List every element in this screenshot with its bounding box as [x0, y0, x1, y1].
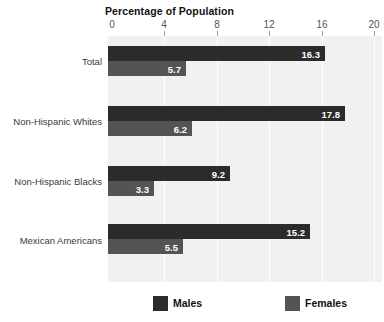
- legend-swatch-females-icon: [285, 296, 300, 311]
- bar-non-hispanic-blacks-females: 3.3: [108, 181, 154, 196]
- bar-mexican-americans-males: 15.2: [108, 224, 310, 239]
- category-label-total: Total: [82, 56, 102, 67]
- bar-value-non-hispanic-whites-males: 17.8: [322, 108, 341, 119]
- x-tick-label-12: 12: [263, 19, 274, 30]
- bar-value-total-females: 5.7: [168, 63, 181, 74]
- category-label-non-hispanic-blacks: Non-Hispanic Blacks: [14, 176, 102, 187]
- bar-mexican-americans-females: 5.5: [108, 239, 183, 254]
- gridline-8: [217, 36, 218, 282]
- x-tick-label-0: 0: [109, 19, 115, 30]
- bar-chart: Percentage of Population 0 4 8 12 16 20 …: [0, 0, 384, 322]
- x-tick-label-16: 16: [316, 19, 327, 30]
- plot-area: 16.3 5.7 17.8 6.2 9.2 3.3 15.2 5.5: [108, 36, 382, 282]
- bar-value-non-hispanic-whites-females: 6.2: [174, 123, 187, 134]
- gridline-20: [374, 36, 375, 282]
- bar-value-mexican-americans-females: 5.5: [165, 241, 178, 252]
- bar-total-males: 16.3: [108, 46, 325, 61]
- bar-total-females: 5.7: [108, 61, 186, 76]
- category-label-non-hispanic-whites: Non-Hispanic Whites: [13, 116, 102, 127]
- bar-value-total-males: 16.3: [302, 48, 321, 59]
- bar-non-hispanic-whites-females: 6.2: [108, 121, 192, 136]
- category-label-mexican-americans: Mexican Americans: [20, 235, 102, 246]
- legend-label-females: Females: [305, 297, 347, 309]
- legend-label-males: Males: [173, 297, 202, 309]
- gridline-16: [322, 36, 323, 282]
- bar-value-mexican-americans-males: 15.2: [287, 226, 306, 237]
- x-axis-title: Percentage of Population: [105, 5, 234, 17]
- legend-swatch-males-icon: [153, 296, 168, 311]
- bar-value-non-hispanic-blacks-males: 9.2: [212, 168, 225, 179]
- bar-value-non-hispanic-blacks-females: 3.3: [136, 183, 149, 194]
- gridline-12: [269, 36, 270, 282]
- x-tick-label-8: 8: [214, 19, 220, 30]
- x-tick-label-4: 4: [161, 19, 167, 30]
- x-tick-label-20: 20: [368, 19, 379, 30]
- bar-non-hispanic-blacks-males: 9.2: [108, 166, 230, 181]
- bar-non-hispanic-whites-males: 17.8: [108, 106, 345, 121]
